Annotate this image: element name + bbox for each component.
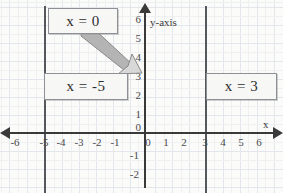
y-tick-6: 6 xyxy=(127,14,141,25)
x-axis-right-arrowhead xyxy=(273,127,283,139)
y-tick-2: 2 xyxy=(127,90,141,101)
y-tick-minus-2: -2 xyxy=(125,169,139,180)
y-tick-minus-1: -1 xyxy=(125,150,139,161)
grid-line-horizontal xyxy=(0,16,283,17)
y-axis xyxy=(144,6,146,188)
x-tick-minus-1: -1 xyxy=(107,137,123,148)
x-tick-5: 5 xyxy=(233,137,249,148)
y-axis-top-arrowhead xyxy=(139,3,151,13)
coordinate-plane-figure: y-axis x -6 -5 -4 -3 -2 -1 0 1 2 3 4 5 6… xyxy=(0,0,283,193)
grid-line-horizontal xyxy=(0,169,283,170)
x-tick-minus-3: -3 xyxy=(71,137,87,148)
grid-line-horizontal xyxy=(0,106,283,107)
x-axis xyxy=(8,132,275,134)
y-tick-1: 1 xyxy=(127,109,141,120)
x-tick-minus-2: -2 xyxy=(89,137,105,148)
callout-x-equals-0[interactable]: x = 0 xyxy=(48,8,118,34)
x-tick-minus-5: -5 xyxy=(36,137,52,148)
callout-x-equals-minus-5[interactable]: x = -5 xyxy=(44,73,128,100)
grid-line-horizontal xyxy=(0,115,283,116)
x-tick-3: 3 xyxy=(197,137,213,148)
grid-line-horizontal xyxy=(0,187,283,188)
x-tick-minus-4: -4 xyxy=(53,137,69,148)
grid-line-horizontal xyxy=(0,178,283,179)
callout-x-equals-3[interactable]: x = 3 xyxy=(206,73,277,100)
x-tick-minus-6: -6 xyxy=(7,137,23,148)
grid-line-horizontal xyxy=(0,160,283,161)
x-tick-4: 4 xyxy=(215,137,231,148)
y-tick-zero: 0 xyxy=(127,122,141,133)
y-axis-label: y-axis xyxy=(150,16,177,28)
x-tick-6: 6 xyxy=(251,137,267,148)
grid-line-horizontal xyxy=(0,124,283,125)
x-tick-zero: 0 xyxy=(140,137,156,148)
grid-line-horizontal xyxy=(0,151,283,152)
x-axis-label: x xyxy=(263,118,269,130)
x-tick-1: 1 xyxy=(158,137,174,148)
x-tick-2: 2 xyxy=(176,137,192,148)
